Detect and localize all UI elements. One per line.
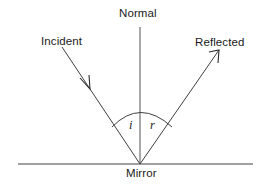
reflected-ray-line — [140, 50, 219, 164]
reflection-diagram: Normal Incident Reflected Mirror i r — [0, 0, 269, 190]
incident-ray-line — [62, 47, 140, 164]
angle-of-incidence-label: i — [129, 119, 132, 132]
normal-label: Normal — [119, 7, 157, 20]
diagram-canvas — [0, 0, 269, 190]
incident-label: Incident — [41, 35, 82, 48]
mirror-label: Mirror — [126, 167, 157, 180]
angle-arc — [112, 113, 172, 128]
angle-of-reflection-label: r — [150, 119, 155, 132]
reflected-label: Reflected — [195, 36, 244, 49]
